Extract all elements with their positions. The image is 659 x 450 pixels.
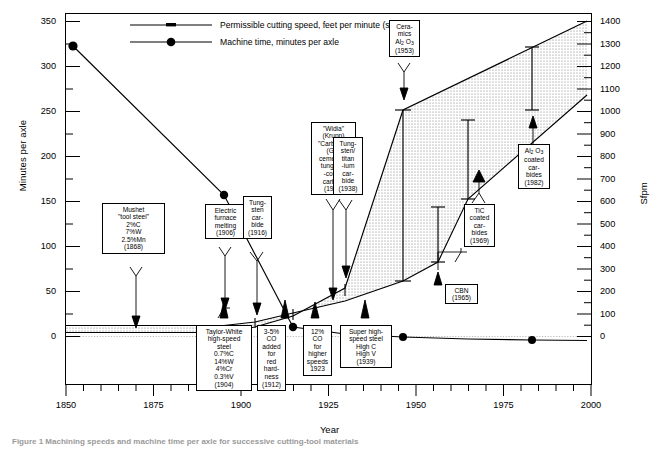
y-right-tick-100: 100: [600, 309, 642, 319]
y-right-tick-300: 300: [600, 264, 642, 274]
annotation-electric-furnace: Electric furnace melting (1906): [205, 204, 246, 239]
x-tick-1850: 1850: [41, 400, 91, 410]
y-right-tick-900: 900: [600, 129, 642, 139]
y-axis-right-title: Sfpm: [638, 164, 649, 224]
x-tick-1900: 1900: [216, 400, 266, 410]
y-right-tick-800: 800: [600, 151, 642, 161]
y-right-tick-1200: 1200: [600, 61, 642, 71]
legend-label-speed: Permissible cutting speed, feet per minu…: [220, 20, 407, 30]
axis-ticks: [0, 0, 659, 450]
x-tick-1975: 1975: [479, 400, 529, 410]
y-right-tick-1000: 1000: [600, 106, 642, 116]
y-right-tick-500: 500: [600, 219, 642, 229]
annotation-ceramics: Cera- mics Al2 O3 (1953): [389, 20, 420, 57]
y-left-tick-300: 300: [14, 61, 56, 71]
x-tick-2000: 2000: [566, 400, 616, 410]
annotation-taylor-white: Taylor-White high-speed steel 0.7%C 14%W…: [196, 325, 252, 391]
y-right-tick-0: 0: [600, 331, 642, 341]
x-axis-title: Year: [0, 424, 659, 435]
figure-caption: Figure 1 Machining speeds and machine ti…: [12, 437, 652, 446]
legend-label-machine-time: Machine time, minutes per axle: [220, 37, 339, 47]
figure-container: 0 50 100 150 200 250 300 350 0 100 200 3…: [0, 0, 659, 450]
annotation-tic-coated-carbides: TiC coated car- bides (1969): [464, 204, 495, 247]
annotation-tungsten-carbide: Tung- sten car- bide (1916): [243, 196, 272, 239]
y-right-tick-1100: 1100: [600, 84, 642, 94]
y-axis-left-title: Minutes per axle: [17, 86, 28, 226]
annotation-cbn: CBN (1965): [445, 284, 478, 304]
y-right-tick-400: 400: [600, 241, 642, 251]
y-right-tick-1300: 1300: [600, 39, 642, 49]
annotation-mushet: Mushet "tool steel" 2%C 7%W 2.5%Mn (1868…: [102, 203, 165, 254]
x-tick-1925: 1925: [304, 400, 354, 410]
annotation-cobalt-3-5: 3-5% CO added for red hard- ness (1912): [257, 325, 286, 391]
y-right-tick-200: 200: [600, 286, 642, 296]
y-right-tick-1400: 1400: [600, 16, 642, 26]
y-left-tick-50: 50: [14, 286, 56, 296]
annotation-super-high-speed-steel: Super high- speed steel High C High V (1…: [340, 325, 392, 368]
legend-marker-line-icon: [128, 18, 214, 32]
y-right-tick-600: 600: [600, 196, 642, 206]
y-right-tick-700: 700: [600, 174, 642, 184]
annotation-cobalt-12: 12% CO for higher speeds 1923: [303, 325, 332, 376]
annotation-al2o3-coated-carbides: Al2 O3 coated car- bides (1982): [518, 144, 550, 189]
annotation-tungsten-titanium-carbide: Tung- sten/ titan -ium car- bide (1938): [333, 137, 363, 195]
legend-marker-dot-icon: [128, 35, 214, 49]
y-left-tick-0: 0: [14, 331, 56, 341]
x-tick-1875: 1875: [129, 400, 179, 410]
y-left-tick-100: 100: [14, 241, 56, 251]
y-left-tick-350: 350: [14, 16, 56, 26]
x-tick-1950: 1950: [391, 400, 441, 410]
